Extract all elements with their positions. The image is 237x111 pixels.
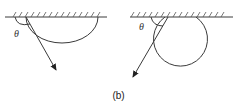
right-theta-label: θ [139, 21, 144, 32]
left-semicircle-arc [26, 17, 98, 43]
right-circle [154, 17, 208, 66]
right-angle-arc [151, 17, 163, 26]
left-theta-label: θ [14, 28, 19, 39]
right-surface-hatching [131, 12, 224, 17]
left-surface-hatching [13, 12, 100, 17]
left-arrow [26, 17, 56, 70]
right-panel: θ [130, 12, 233, 77]
figure-caption: (b) [0, 90, 237, 101]
left-panel: θ [5, 12, 107, 70]
